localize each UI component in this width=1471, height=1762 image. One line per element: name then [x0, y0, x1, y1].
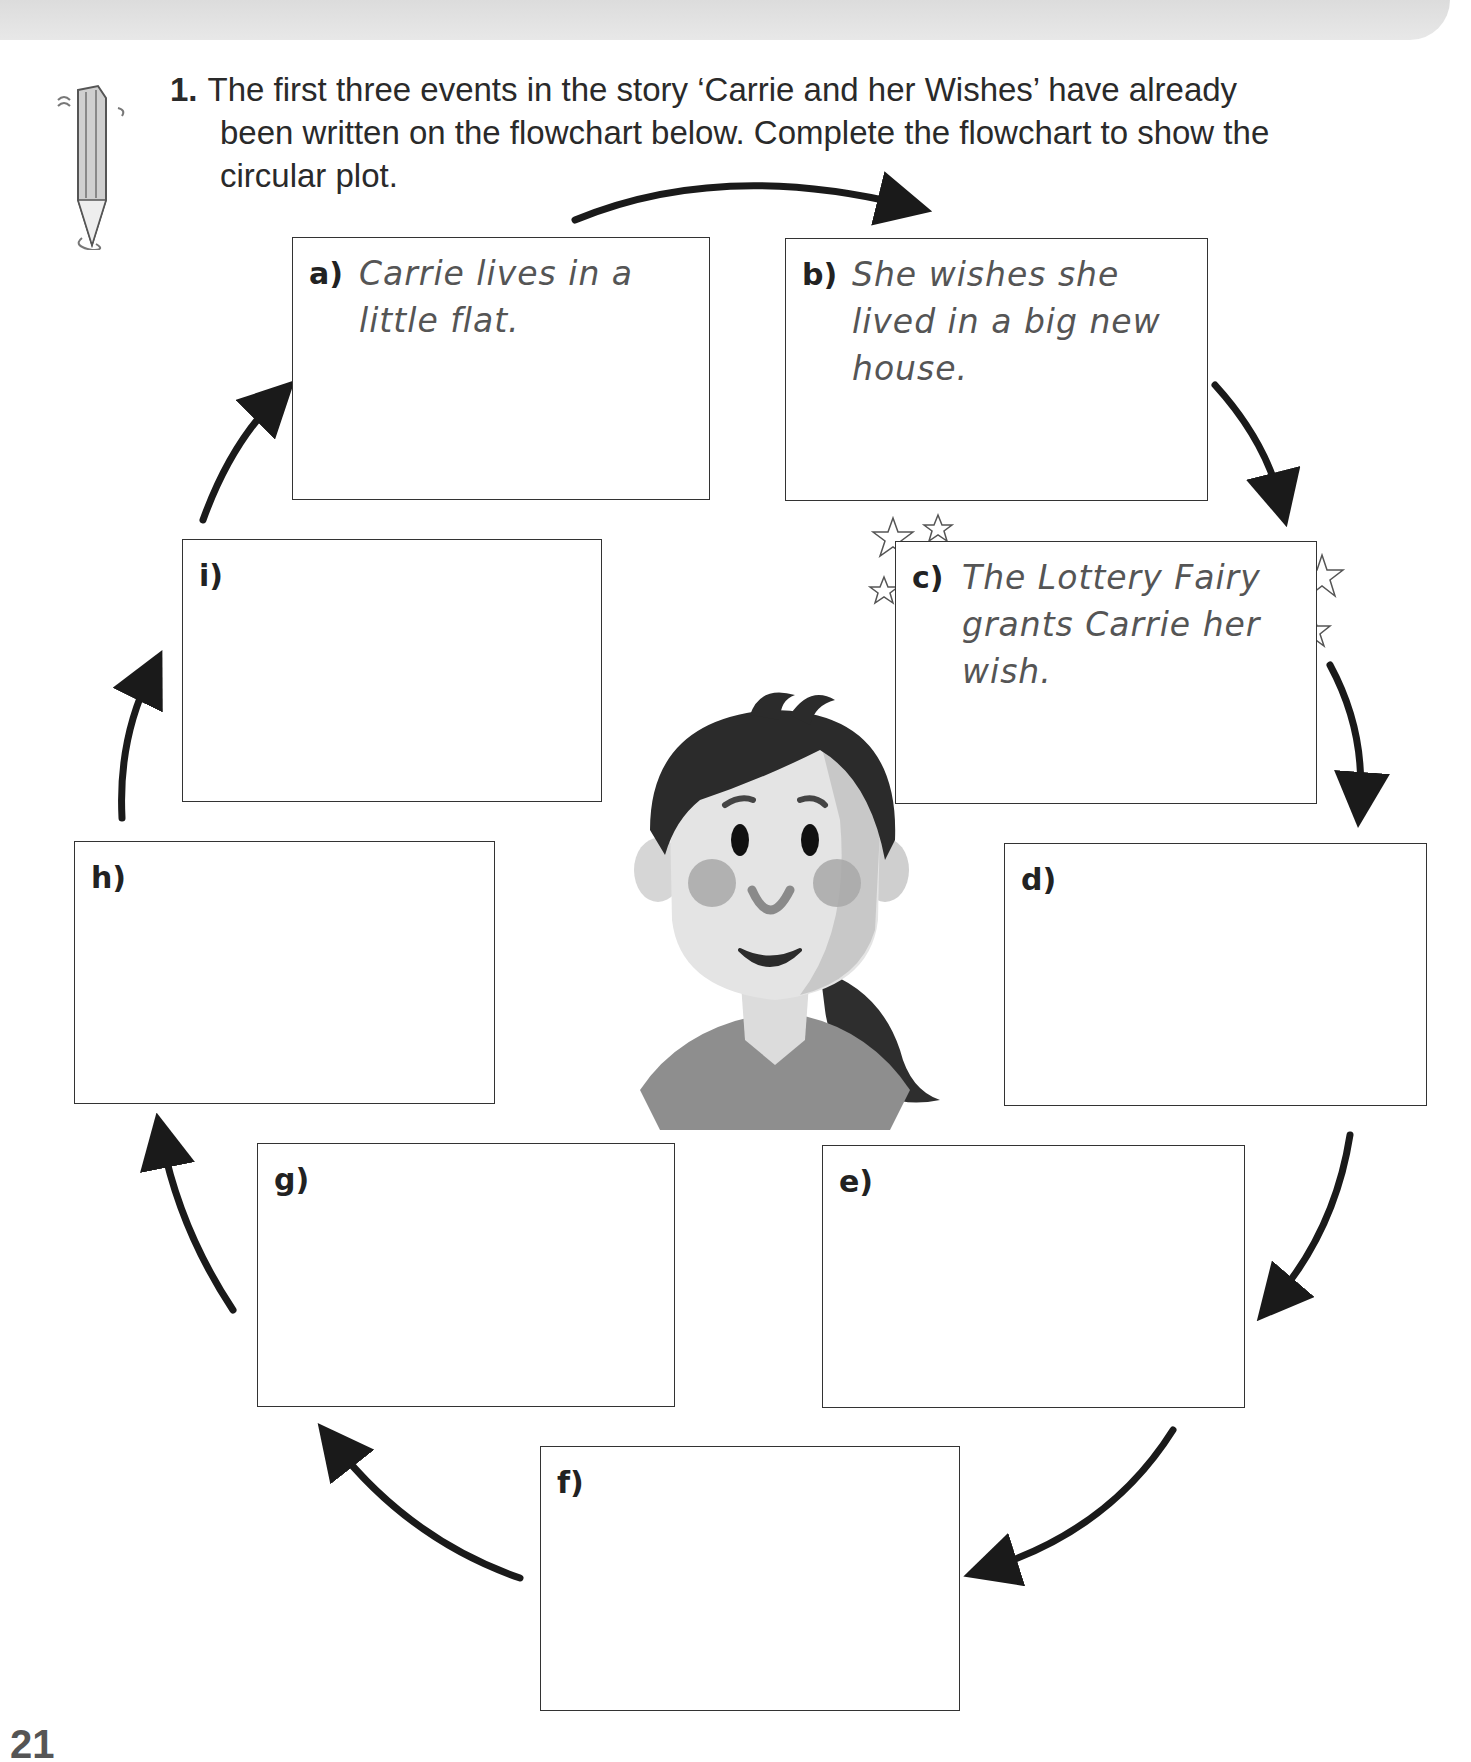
box-label: b) — [802, 257, 837, 292]
arrow-h-to-i — [122, 675, 150, 818]
box-label: d) — [1021, 862, 1056, 897]
arrow-g-to-h — [162, 1140, 233, 1310]
box-label: f) — [557, 1465, 584, 1500]
box-text: The Lottery Fairy grants Carrie her wish… — [962, 554, 1302, 695]
arrow-e-to-f — [990, 1430, 1173, 1568]
flowchart-box-h[interactable]: h) — [74, 841, 495, 1104]
box-label: i) — [199, 558, 223, 593]
arrow-a-to-b — [575, 186, 905, 220]
flowchart-box-g[interactable]: g) — [257, 1143, 675, 1407]
star-icon — [924, 515, 952, 541]
page-number: 21 — [10, 1722, 55, 1762]
flowchart-box-b[interactable]: b) She wishes she lived in a big new hou… — [785, 238, 1208, 501]
arrow-d-to-e — [1275, 1135, 1350, 1300]
arrow-b-to-c — [1215, 385, 1280, 500]
girl-illustration — [620, 670, 940, 1130]
arrow-c-to-d — [1330, 665, 1361, 800]
box-label: e) — [839, 1164, 873, 1199]
flowchart-box-d[interactable]: d) — [1004, 843, 1427, 1106]
arrow-f-to-g — [335, 1445, 520, 1578]
arrow-i-to-a — [203, 400, 275, 520]
box-label: g) — [274, 1162, 309, 1197]
flowchart-box-a[interactable]: a) Carrie lives in a little flat. — [292, 237, 710, 500]
box-label: c) — [912, 560, 944, 595]
flowchart-box-e[interactable]: e) — [822, 1145, 1245, 1408]
flowchart-box-c[interactable]: c) The Lottery Fairy grants Carrie her w… — [895, 541, 1317, 804]
star-icon — [870, 577, 898, 603]
flowchart-box-f[interactable]: f) — [540, 1446, 960, 1711]
box-label: h) — [91, 860, 126, 895]
box-text: Carrie lives in a little flat. — [359, 250, 695, 344]
box-text: She wishes she lived in a big new house. — [852, 251, 1193, 392]
flowchart-box-i[interactable]: i) — [182, 539, 602, 802]
box-label: a) — [309, 256, 343, 291]
